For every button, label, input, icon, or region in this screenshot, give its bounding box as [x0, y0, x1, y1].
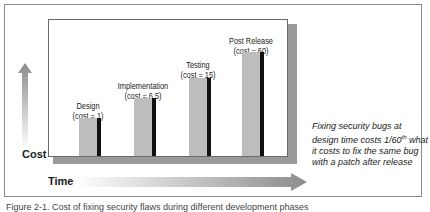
y-axis-label: Cost	[22, 148, 46, 160]
bar-implementation	[134, 98, 156, 156]
annotation-main: Fixing security bugs at design time cost…	[312, 121, 402, 145]
time-right-arrow-icon	[75, 173, 307, 191]
bar-name: Post Release	[214, 36, 288, 46]
bar-name: Testing	[161, 60, 235, 70]
bar-label-testing: Testing (cost = 15)	[161, 60, 235, 80]
figure-caption: Figure 2-1. Cost of fixing security flaw…	[6, 202, 309, 212]
figure-frame: Design (cost = 1) Implementation (cost =…	[4, 4, 422, 197]
bar-testing	[189, 78, 211, 156]
bar-design	[79, 118, 101, 156]
bar-name: Implementation	[106, 81, 180, 91]
bar-name: Design	[51, 101, 125, 111]
x-axis-label: Time	[48, 175, 73, 187]
bar-post-release	[242, 52, 264, 156]
annotation-text: Fixing security bugs at design time cost…	[312, 121, 430, 168]
cost-up-arrow-icon	[18, 63, 32, 149]
plot-area: Design (cost = 1) Implementation (cost =…	[48, 19, 288, 157]
